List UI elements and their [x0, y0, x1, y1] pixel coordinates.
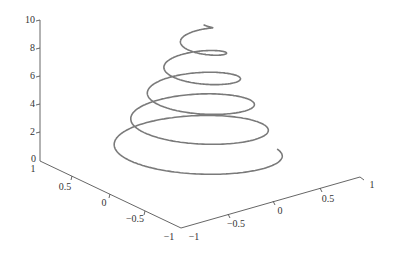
z-tick-label: 8: [30, 42, 35, 53]
right-tick-label: −1: [189, 231, 200, 242]
right-tick-label: 1: [370, 179, 375, 190]
left-tick-label: −0.5: [126, 213, 144, 224]
z-tick: [36, 104, 40, 105]
z-tick: [36, 132, 40, 133]
left-tick: [71, 176, 72, 180]
right-tick-label: 0.5: [322, 193, 335, 204]
z-tick: [36, 76, 40, 77]
left-tick: [109, 194, 110, 198]
left-tick-label: 0.5: [59, 181, 72, 192]
left-tick: [144, 211, 145, 215]
right-tick-label: −0.5: [227, 218, 245, 229]
left-tick-label: 0: [102, 197, 107, 208]
z-tick-label: 4: [30, 98, 35, 109]
right-tick-label: 0: [278, 205, 283, 216]
z-tick-label: 6: [30, 70, 35, 81]
helix-3d-plot: 10 8 6 4 2 0 1 0.5 0 −0.5 −1 −1 −0.5 0 0…: [0, 0, 394, 255]
z-axis: 10 8 6 4 2 0: [25, 14, 40, 164]
right-axis-end-tick: [360, 177, 364, 180]
right-tick: [320, 188, 322, 192]
right-axis: −1 −0.5 0 0.5 1: [181, 177, 375, 242]
left-tick-label: 1: [31, 163, 36, 174]
z-tick: [36, 48, 40, 49]
z-tick-label: 2: [30, 126, 35, 137]
left-axis: 1 0.5 0 −0.5 −1: [31, 161, 182, 242]
z-tick-label: 10: [25, 14, 35, 25]
left-axis-line: [40, 161, 181, 228]
z-tick: [36, 20, 40, 21]
left-tick-label: −1: [164, 231, 175, 242]
helix-series-line: [114, 25, 282, 174]
